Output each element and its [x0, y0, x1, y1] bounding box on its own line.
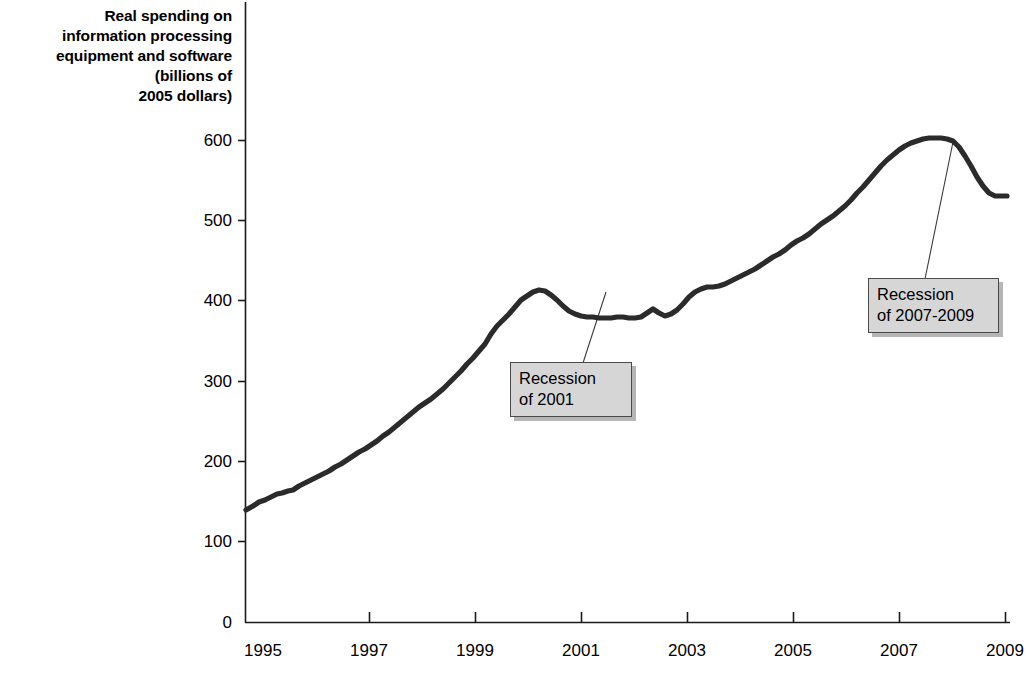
annotation-recession-2007-2009: Recession of 2007-2009 — [868, 278, 999, 333]
y-tick-label-200: 200 — [178, 453, 232, 470]
y-tick-label-400: 400 — [178, 292, 232, 309]
y-tick-label-0: 0 — [178, 614, 232, 631]
x-axis-ticks — [370, 612, 1006, 622]
x-tick-label-2003: 2003 — [652, 642, 722, 659]
callout-leader-line-2001 — [583, 292, 606, 363]
x-tick-label-2005: 2005 — [758, 642, 828, 659]
y-tick-label-500: 500 — [178, 212, 232, 229]
x-tick-label-1997: 1997 — [334, 642, 404, 659]
x-tick-label-1995: 1995 — [228, 642, 298, 659]
y-tick-label-600: 600 — [178, 132, 232, 149]
x-tick-label-2009: 2009 — [970, 642, 1028, 659]
y-tick-label-300: 300 — [178, 373, 232, 390]
x-tick-label-2001: 2001 — [546, 642, 616, 659]
y-axis-ticks — [238, 141, 245, 542]
annotation-recession-2001: Recession of 2001 — [510, 362, 632, 417]
y-tick-label-100: 100 — [178, 533, 232, 550]
x-tick-label-2007: 2007 — [864, 642, 934, 659]
x-tick-label-1999: 1999 — [440, 642, 510, 659]
callout-leader-line-2007 — [925, 142, 953, 279]
